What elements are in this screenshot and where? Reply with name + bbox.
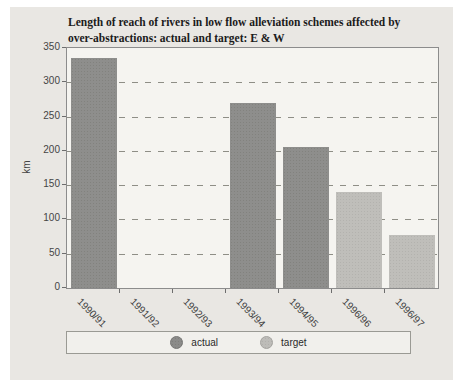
y-tick-label-0: 0 [30, 281, 60, 292]
x-category-label-1996/97: 1996/97 [393, 296, 426, 329]
y-tick-label-200: 200 [30, 144, 60, 155]
x-tick-mark-4 [278, 289, 279, 293]
legend-swatch-target-icon [260, 336, 273, 349]
y-tick-label-50: 50 [30, 247, 60, 258]
legend-item-target: target [260, 336, 307, 349]
gridline-300 [67, 82, 438, 83]
bar-1993/94 [230, 103, 276, 288]
legend-label-target: target [281, 337, 307, 348]
y-tick-mark-0 [62, 287, 66, 288]
x-tick-mark-2 [172, 289, 173, 293]
y-tick-mark-250 [62, 116, 66, 117]
bar-1996/96 [336, 192, 382, 288]
x-category-label-1992/93: 1992/93 [181, 296, 214, 329]
legend-item-actual: actual [170, 336, 218, 349]
y-tick-label-150: 150 [30, 178, 60, 189]
plot-area [66, 47, 439, 289]
x-category-label-1991/92: 1991/92 [128, 296, 161, 329]
chart-title-line2: over-abstractions: actual and target: E … [68, 30, 446, 46]
y-tick-label-100: 100 [30, 212, 60, 223]
bar-1994/95 [283, 147, 329, 288]
legend: actual target [66, 331, 411, 354]
x-tick-mark-3 [225, 289, 226, 293]
x-tick-mark-1 [119, 289, 120, 293]
bar-1990/91 [71, 58, 117, 288]
y-tick-mark-100 [62, 218, 66, 219]
bar-1996/97 [389, 235, 435, 288]
chart-panel: Length of reach of rivers in low flow al… [10, 7, 453, 380]
legend-label-actual: actual [191, 337, 218, 348]
x-category-label-1990/91: 1990/91 [75, 296, 108, 329]
chart-title: Length of reach of rivers in low flow al… [68, 14, 446, 46]
chart-title-line1: Length of reach of rivers in low flow al… [68, 14, 446, 30]
y-tick-label-250: 250 [30, 110, 60, 121]
x-tick-mark-5 [331, 289, 332, 293]
y-tick-label-350: 350 [30, 41, 60, 52]
y-tick-mark-200 [62, 150, 66, 151]
x-category-label-1994/95: 1994/95 [287, 296, 320, 329]
legend-swatch-actual-icon [170, 336, 183, 349]
y-tick-label-300: 300 [30, 75, 60, 86]
y-tick-mark-300 [62, 81, 66, 82]
x-tick-mark-6 [384, 289, 385, 293]
y-tick-mark-150 [62, 184, 66, 185]
y-tick-mark-50 [62, 253, 66, 254]
x-category-label-1996/96: 1996/96 [340, 296, 373, 329]
y-tick-mark-350 [62, 47, 66, 48]
y-axis-label: km [21, 160, 32, 173]
x-category-label-1993/94: 1993/94 [234, 296, 267, 329]
